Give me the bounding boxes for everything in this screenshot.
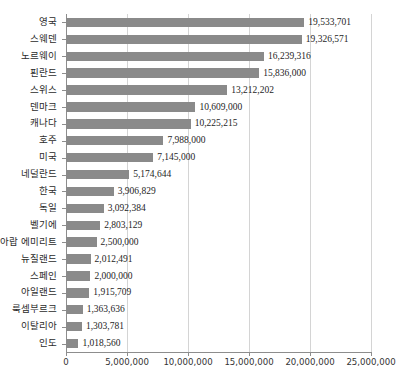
bar-row: 아일랜드1,915,709 [0,284,412,301]
category-label: 캐나다 [0,115,57,132]
bar [66,68,259,77]
bar [66,204,104,213]
bar [66,153,153,162]
value-label: 3,092,384 [108,200,146,217]
x-axis-tick-label: 5,000,000 [105,357,149,367]
category-label: 영국 [0,14,57,31]
bar [66,52,264,61]
x-axis-tick-label: 0 [63,357,68,367]
x-axis-tick-label: 20,000,000 [285,357,334,367]
category-label: 이탈리아 [0,318,57,335]
bar [66,305,83,314]
category-label: 뉴질랜드 [0,251,57,268]
bar [66,288,89,297]
bar [66,187,114,196]
bar-row: 인도1,018,560 [0,335,412,352]
bar-chart: 영국19,533,701스웨덴19,326,571노르웨이16,239,316핀… [0,0,412,386]
bar-row: 미국7,145,000 [0,149,412,166]
value-label: 10,225,215 [195,115,238,132]
bar [66,237,97,246]
bar-row: 캐나다10,225,215 [0,115,412,132]
x-axis-tick [371,352,372,356]
value-label: 2,500,000 [101,234,139,251]
value-label: 13,212,202 [231,82,274,99]
category-label: 한국 [0,183,57,200]
value-label: 2,000,000 [94,268,132,285]
value-label: 3,906,829 [118,183,156,200]
value-label: 10,609,000 [199,99,242,116]
bar-row: 아랍 에미리트2,500,000 [0,234,412,251]
bar [66,170,129,179]
bar [66,339,78,348]
value-label: 7,145,000 [157,149,195,166]
x-axis-tick [127,352,128,356]
category-label: 룩셈부르크 [0,301,57,318]
x-axis-tick [188,352,189,356]
bar-row: 룩셈부르크1,363,636 [0,301,412,318]
bar-row: 스페인2,000,000 [0,268,412,285]
value-label: 15,836,000 [263,65,306,82]
bar-row: 호주7,988,000 [0,132,412,149]
value-label: 19,533,701 [308,14,351,31]
bar-row: 스위스13,212,202 [0,82,412,99]
bar-row: 핀란드15,836,000 [0,65,412,82]
bar [66,119,191,128]
value-label: 1,018,560 [82,335,120,352]
category-label: 인도 [0,335,57,352]
x-axis-tick-label: 15,000,000 [224,357,273,367]
x-axis-tick [310,352,311,356]
value-label: 7,988,000 [167,132,205,149]
category-label: 호주 [0,132,57,149]
category-label: 벨기에 [0,217,57,234]
bar-row: 독일3,092,384 [0,200,412,217]
category-label: 핀란드 [0,65,57,82]
value-label: 2,803,129 [104,217,142,234]
bar-row: 벨기에2,803,129 [0,217,412,234]
value-label: 1,363,636 [87,301,125,318]
value-label: 1,915,709 [93,284,131,301]
category-label: 스페인 [0,268,57,285]
category-label: 아일랜드 [0,284,57,301]
category-label: 노르웨이 [0,48,57,65]
x-axis-tick [249,352,250,356]
bar [66,221,100,230]
x-axis-tick-label: 25,000,000 [346,357,395,367]
bar-row: 이탈리아1,303,781 [0,318,412,335]
category-label: 스위스 [0,82,57,99]
value-label: 19,326,571 [306,31,349,48]
bar-row: 영국19,533,701 [0,14,412,31]
bar [66,85,227,94]
value-label: 2,012,491 [95,251,133,268]
category-label: 덴마크 [0,99,57,116]
bar [66,35,302,44]
value-label: 1,303,781 [86,318,124,335]
value-label: 16,239,316 [268,48,311,65]
bar-row: 덴마크10,609,000 [0,99,412,116]
category-label: 아랍 에미리트 [0,234,57,251]
bar [66,102,195,111]
value-label: 5,174,644 [133,166,171,183]
bar [66,271,90,280]
bar-row: 뉴질랜드2,012,491 [0,251,412,268]
category-label: 미국 [0,149,57,166]
bar [66,18,304,27]
bar-row: 노르웨이16,239,316 [0,48,412,65]
bar-row: 네덜란드5,174,644 [0,166,412,183]
category-label: 네덜란드 [0,166,57,183]
x-axis-tick-label: 10,000,000 [163,357,212,367]
bar-row: 스웨덴19,326,571 [0,31,412,48]
bar-row: 한국3,906,829 [0,183,412,200]
x-axis-tick [66,352,67,356]
x-axis-line [66,352,372,353]
bar [66,254,91,263]
bar [66,136,163,145]
category-label: 스웨덴 [0,31,57,48]
bar [66,322,82,331]
category-label: 독일 [0,200,57,217]
